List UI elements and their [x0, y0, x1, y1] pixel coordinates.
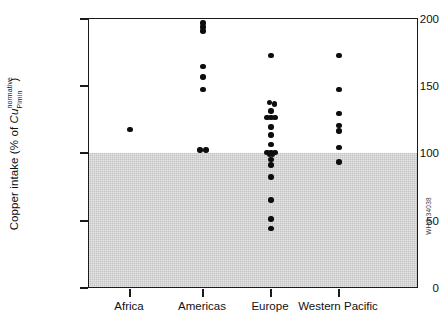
x-tick-label-americas: Americas	[178, 300, 226, 312]
data-point	[336, 87, 341, 92]
data-point	[268, 197, 273, 202]
data-point	[268, 108, 273, 113]
data-point	[336, 145, 341, 150]
data-point	[268, 142, 273, 147]
y-axis-title-superscript: normative	[6, 77, 13, 109]
data-point	[270, 151, 275, 156]
data-point	[268, 216, 273, 221]
x-tick-label-western-pacific: Western Pacific	[298, 300, 378, 312]
y-axis-title-subscript: Pimin	[16, 91, 23, 109]
x-tick-label-africa: Africa	[114, 300, 143, 312]
x-tick-label-europe: Europe	[251, 300, 288, 312]
who-source-code-text: WHO 34038	[425, 197, 432, 235]
data-points-layer	[89, 19, 417, 287]
who-source-code: WHO 34038	[421, 186, 435, 246]
data-point	[200, 87, 205, 92]
data-point	[268, 162, 273, 167]
y-tick-mark-0	[80, 287, 88, 289]
figure-scatter-copper-intake: Copper intake (% of CunormativePimin) 0 …	[0, 0, 439, 321]
data-point	[272, 101, 277, 106]
data-point	[200, 64, 205, 69]
y-axis-title: Copper intake (% of CunormativePimin)	[0, 18, 28, 290]
data-point	[127, 127, 132, 132]
data-point	[200, 28, 205, 33]
data-point	[203, 147, 208, 152]
data-point	[200, 74, 205, 79]
data-point	[336, 111, 341, 116]
data-point	[336, 159, 341, 164]
data-point	[336, 128, 341, 133]
y-tick-mark-150	[80, 85, 88, 87]
data-point	[268, 124, 273, 129]
plot-area	[88, 18, 418, 288]
x-tick-mark-europe	[270, 289, 272, 297]
x-tick-mark-western-pacific	[338, 289, 340, 297]
data-point	[268, 174, 273, 179]
data-point	[272, 115, 277, 120]
data-point	[268, 226, 273, 231]
data-point	[268, 132, 273, 137]
data-point	[197, 147, 202, 152]
data-point	[268, 53, 273, 58]
y-tick-mark-50	[80, 220, 88, 222]
x-tick-mark-americas	[202, 289, 204, 297]
data-point	[336, 53, 341, 58]
y-axis-title-prefix: Copper intake (% of	[8, 124, 20, 231]
y-axis-title-symbol: Cu	[8, 109, 20, 124]
y-axis-title-text: Copper intake (% of CunormativePimin)	[8, 78, 20, 231]
y-tick-mark-200	[80, 18, 88, 20]
y-tick-mark-100	[80, 152, 88, 154]
x-tick-mark-africa	[129, 289, 131, 297]
